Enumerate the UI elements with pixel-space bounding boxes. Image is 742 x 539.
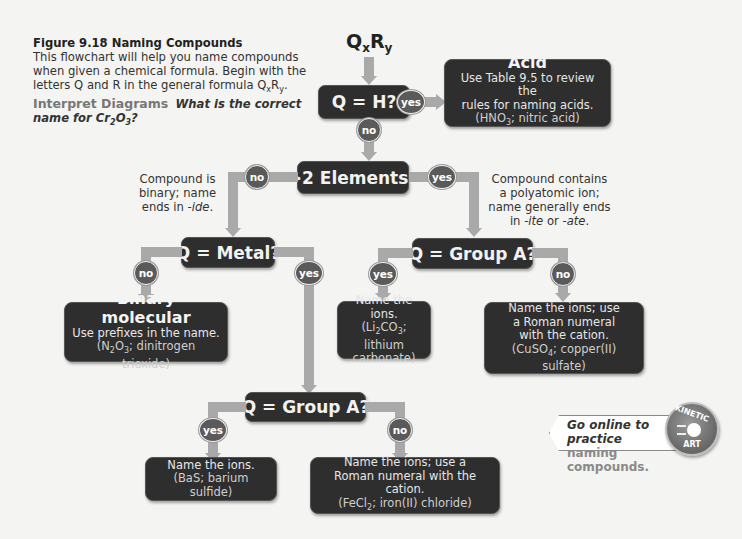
arrow-down-icon <box>225 228 241 237</box>
figure-caption: Figure 9.18 Naming Compounds This flowch… <box>33 36 308 131</box>
example-text: (HNO3; nitric acid) <box>451 112 604 130</box>
result-ionic-group-a: Name the ions. (BaS; barium sulfide) <box>145 457 277 501</box>
no-badge: no <box>134 261 158 285</box>
result-polyatomic-not-group-a: Name the ions; use a Roman numeral with … <box>484 302 644 374</box>
result-ionic-not-group-a: Name the ions; use a Roman numeral with … <box>310 457 500 514</box>
ball-icon <box>687 423 701 437</box>
arrow-down-icon <box>466 228 482 237</box>
figure-title: Figure 9.18 Naming Compounds <box>33 36 308 50</box>
interpret-label: Interpret Diagrams <box>33 96 168 111</box>
caption-body: This flowchart will help you name compou… <box>33 50 308 97</box>
interpret-question: Interpret Diagrams What is the correct n… <box>33 97 308 130</box>
yes-badge: yes <box>369 262 397 286</box>
result-title: Acid <box>451 53 604 72</box>
yes-badge: yes <box>428 165 456 189</box>
node-q-equals-group-a-ionic: Q = Group A? <box>245 392 366 422</box>
arrow-down-icon <box>361 76 377 85</box>
no-badge: no <box>551 262 575 286</box>
node-q-equals-group-a-polyatomic: Q = Group A? <box>412 238 533 269</box>
connector <box>228 172 238 230</box>
start-formula: QxRy <box>346 30 392 55</box>
example-text: (CuSO4; copper(II) sulfate) <box>491 343 637 374</box>
yes-badge: yes <box>199 418 227 442</box>
example-text: (BaS; barium sulfide) <box>152 472 270 499</box>
result-binary-molecular: Binary molecular Use prefixes in the nam… <box>64 302 228 362</box>
kinetic-art-badge-icon[interactable]: KINETIC ART <box>665 402 719 456</box>
node-q-equals-metal: Q = Metal? <box>181 237 275 268</box>
result-acid: Acid Use Table 9.5 to review the rules f… <box>444 59 611 127</box>
example-text: (FeCl2; iron(II) chloride) <box>317 497 493 515</box>
result-polyatomic-group-a: Name the ions. (Li2CO3; lithium carbonat… <box>337 301 431 359</box>
motion-lines-icon <box>677 425 686 435</box>
no-badge: no <box>357 118 381 142</box>
example-text: (N2O3; dinitrogen trioxide) <box>71 340 221 371</box>
connector <box>364 57 374 78</box>
note-binary: Compound is binary; name ends in -ide. <box>130 172 225 214</box>
yes-badge: yes <box>397 90 425 114</box>
example-text: (Li2CO3; lithium <box>344 321 424 352</box>
no-badge: no <box>245 165 269 189</box>
yes-badge: yes <box>295 261 323 285</box>
no-badge: no <box>388 418 412 442</box>
connector <box>469 172 479 230</box>
arrow-down-icon <box>361 152 377 161</box>
result-title: Binary molecular <box>71 289 221 327</box>
note-polyatomic: Compound contains a polyatomic ion; name… <box>487 172 612 228</box>
node-more-than-two-elements: >2 Elements? <box>297 161 409 194</box>
